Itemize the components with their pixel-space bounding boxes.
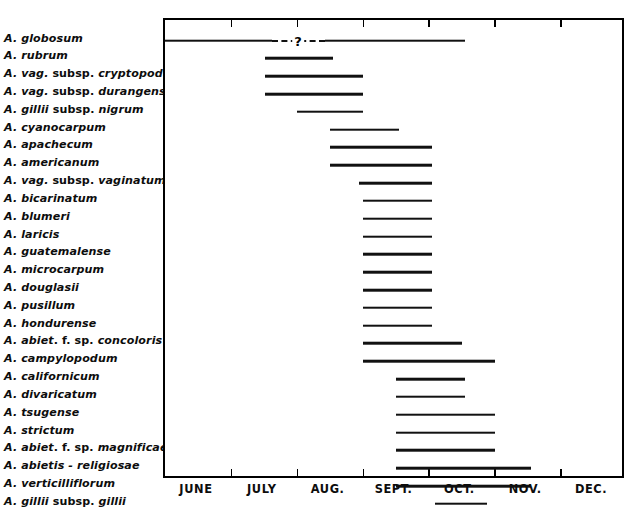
range-bar (363, 342, 462, 345)
range-bar (363, 235, 432, 238)
month-label-oct: OCT. (444, 482, 475, 496)
range-bar (363, 271, 432, 274)
species-label: A. gillii subsp. gillii (4, 496, 126, 507)
species-label: A. douglasii (4, 282, 79, 293)
species-label: A. gillii subsp. nigrum (4, 104, 144, 115)
range-bar (265, 57, 333, 60)
range-bar (265, 93, 363, 96)
range-bar (396, 431, 495, 434)
month-axis-labels: JUNEJULYAUG.SEPT.OCT.NOV.DEC. (163, 482, 624, 506)
species-label: A. campylopodum (4, 354, 118, 365)
range-bar (330, 146, 432, 149)
species-label: A. bicarinatum (4, 193, 98, 204)
range-bar (363, 289, 432, 292)
plot-frame: ? (163, 18, 624, 478)
range-bar (396, 396, 465, 399)
range-bar (396, 378, 465, 381)
species-label: A. vag. subsp. cryptopodum (4, 69, 182, 80)
range-bar (330, 128, 399, 131)
range-bar (396, 413, 495, 416)
species-label: A. microcarpum (4, 265, 104, 276)
species-label: A. rubrum (4, 51, 68, 62)
range-bar (396, 467, 531, 470)
month-label-june: JUNE (179, 482, 212, 496)
month-label-aug: AUG. (311, 482, 345, 496)
species-label: A. divaricatum (4, 389, 97, 400)
species-label: A. tsugense (4, 407, 79, 418)
month-label-sept: SEPT. (375, 482, 413, 496)
month-label-nov: NOV. (509, 482, 542, 496)
species-label: A. globosum (4, 33, 83, 44)
species-label: A. pusillum (4, 300, 75, 311)
species-label: A. vag. subsp. durangense (4, 86, 173, 97)
species-label: A. apachecum (4, 140, 93, 151)
range-bar (363, 253, 432, 256)
species-label: A. cyanocarpum (4, 122, 106, 133)
species-label: A. abietis - religiosae (4, 461, 140, 472)
range-bar (363, 200, 432, 203)
range-bar (396, 449, 495, 452)
species-label: A. californicum (4, 372, 100, 383)
species-label: A. blumeri (4, 211, 70, 222)
species-label: A. strictum (4, 425, 75, 436)
bar-group: ? (165, 20, 622, 476)
species-label: A. verticilliflorum (4, 478, 115, 489)
uncertainty-question-mark: ? (292, 34, 304, 47)
figure-root: A. globosumA. rubrumA. vag. subsp. crypt… (0, 0, 639, 511)
species-label: A. laricis (4, 229, 59, 240)
month-label-dec: DEC. (575, 482, 607, 496)
range-bar (297, 110, 363, 113)
species-label: A. vag. subsp. vaginatum (4, 176, 166, 187)
range-bar (363, 217, 432, 220)
range-bar (265, 75, 363, 78)
range-bar (363, 324, 432, 327)
species-label-column: A. globosumA. rubrumA. vag. subsp. crypt… (0, 0, 163, 478)
range-bar (363, 360, 495, 363)
range-bar (330, 164, 432, 167)
species-label: A. abiet. f. sp. concoloris (4, 336, 162, 347)
species-label: A. guatemalense (4, 247, 111, 258)
species-label: A. americanum (4, 158, 99, 169)
range-bar (363, 307, 432, 310)
range-bar (359, 182, 432, 185)
month-label-july: JULY (247, 482, 277, 496)
species-label: A. hondurense (4, 318, 96, 329)
species-label: A. abiet. f. sp. magnificae (4, 443, 168, 454)
range-bar (165, 39, 272, 42)
range-bar (325, 39, 465, 42)
